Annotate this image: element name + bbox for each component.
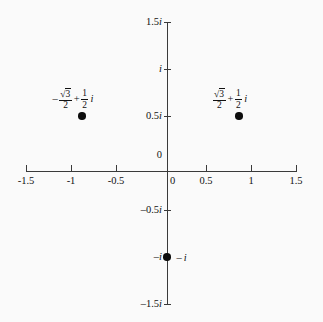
y-tick-label-number: 0.5 xyxy=(146,110,159,121)
y-tick-label-number: –1.5 xyxy=(141,298,159,309)
fraction-denominator: 2 xyxy=(235,100,242,110)
imaginary-unit-glyph: i xyxy=(243,94,247,105)
imaginary-unit-glyph: i xyxy=(159,251,162,262)
square-root-icon: √3 xyxy=(60,88,71,99)
imaginary-unit-glyph: i xyxy=(159,16,162,27)
y-tick-label-number: 1.5 xyxy=(146,16,159,27)
y-axis-origin-label: 0 xyxy=(157,150,162,161)
imaginary-unit-glyph: i xyxy=(159,298,162,309)
data-point xyxy=(78,112,86,120)
x-tick-label: -1 xyxy=(67,176,76,187)
y-tick-label: –i xyxy=(154,252,162,263)
x-tick-mark xyxy=(206,165,207,172)
y-tick-mark xyxy=(164,69,171,70)
y-tick-mark xyxy=(164,22,171,23)
y-tick-label-number: –0.5 xyxy=(141,204,159,215)
x-tick-mark xyxy=(251,165,252,172)
y-tick-mark xyxy=(164,116,171,117)
x-tick-mark xyxy=(26,165,27,172)
fraction-sqrt3-over-2: √32 xyxy=(213,88,226,111)
fraction-numerator: 1 xyxy=(81,89,88,100)
x-tick-mark xyxy=(296,165,297,172)
complex-plane-figure: -1.5 -1 -0.5 1 0.5 1.5 0 0 1.5i i 0.5i –… xyxy=(0,0,323,322)
math-expression: √32+12i xyxy=(212,88,247,111)
data-point xyxy=(235,112,243,120)
fraction-one-half: 12 xyxy=(81,89,88,111)
x-axis-origin-label: 0 xyxy=(170,176,175,187)
y-tick-label: 0.5i xyxy=(146,111,162,122)
minus-sign: – xyxy=(52,94,58,105)
x-tick-mark xyxy=(71,165,72,172)
x-tick-label: 0.5 xyxy=(199,176,212,187)
x-tick-label: -0.5 xyxy=(108,176,125,187)
plus-sign: + xyxy=(73,94,80,105)
y-tick-label: –1.5i xyxy=(141,299,162,310)
y-tick-label: i xyxy=(159,64,162,75)
fraction-denominator: 2 xyxy=(59,101,72,111)
radicand: 3 xyxy=(219,88,225,99)
x-tick-label: -1.5 xyxy=(18,176,35,187)
plus-sign: + xyxy=(227,94,234,105)
fraction-denominator: 2 xyxy=(213,101,226,111)
math-expression: –i xyxy=(176,252,187,263)
imaginary-unit-glyph: i xyxy=(182,253,186,264)
data-point-label-right: √32+12i xyxy=(212,88,247,111)
fraction-sqrt3-over-2: √32 xyxy=(59,88,72,111)
x-tick-label: 1 xyxy=(248,176,253,187)
y-tick-mark xyxy=(164,210,171,211)
imaginary-unit-glyph: i xyxy=(159,110,162,121)
data-point-label-left: –√32+12i xyxy=(52,88,93,111)
y-tick-label: 1.5i xyxy=(146,17,162,28)
math-expression: –√32+12i xyxy=(52,88,93,111)
imaginary-unit-glyph: i xyxy=(89,94,93,105)
fraction-numerator: 1 xyxy=(235,89,242,100)
fraction-one-half: 12 xyxy=(235,89,242,111)
square-root-icon: √3 xyxy=(214,88,225,99)
y-tick-mark xyxy=(164,304,171,305)
y-axis-line xyxy=(167,22,168,305)
imaginary-unit-glyph: i xyxy=(159,63,162,74)
fraction-numerator: √3 xyxy=(213,88,226,101)
fraction-numerator: √3 xyxy=(59,88,72,101)
x-tick-label: 1.5 xyxy=(289,176,302,187)
imaginary-unit-glyph: i xyxy=(159,204,162,215)
radicand: 3 xyxy=(65,88,71,99)
x-axis-line xyxy=(26,171,296,172)
data-point xyxy=(163,253,171,261)
y-tick-label: –0.5i xyxy=(141,205,162,216)
fraction-denominator: 2 xyxy=(81,100,88,110)
data-point-label-bottom: –i xyxy=(176,252,187,263)
x-tick-mark xyxy=(116,165,117,172)
x-tick-mark xyxy=(167,165,168,172)
